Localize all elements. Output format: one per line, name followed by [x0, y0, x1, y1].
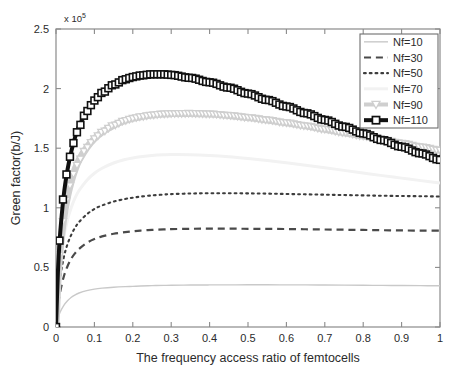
y-tick-label: 1: [43, 202, 49, 214]
legend-label: Nf=90: [393, 99, 423, 111]
series-marker: [70, 140, 77, 147]
y-axis-title: Green factor(b/J): [9, 131, 23, 225]
legend-label: Nf=110: [393, 114, 428, 126]
legend-label: Nf=10: [393, 36, 423, 48]
series-nf-70: [56, 155, 440, 327]
series-line: [56, 193, 440, 327]
series-nf-10: [56, 285, 440, 327]
series-marker: [63, 171, 70, 178]
legend-label: Nf=70: [393, 83, 423, 95]
green-factor-line-chart: 00.10.20.30.40.50.60.70.80.9100.511.522.…: [0, 0, 473, 375]
legend-label: Nf=50: [393, 67, 423, 79]
legend: Nf=10Nf=30Nf=50Nf=70Nf=90Nf=110: [360, 34, 438, 128]
x-tick-label: 0.9: [394, 332, 409, 344]
x-tick-label: 1: [437, 332, 443, 344]
y-tick-label: 0: [43, 321, 49, 333]
series-marker: [437, 156, 444, 163]
x-tick-label: 0.4: [202, 332, 217, 344]
x-tick-label: 0.8: [356, 332, 371, 344]
chart-figure: 00.10.20.30.40.50.60.70.80.9100.511.522.…: [0, 0, 473, 375]
legend-item-nf-110[interactable]: Nf=110: [364, 114, 428, 126]
series-marker: [56, 237, 63, 244]
series-marker: [60, 196, 67, 203]
series-marker: [77, 121, 84, 128]
x-tick-label: 0.5: [240, 332, 255, 344]
x-tick-label: 0.7: [317, 332, 332, 344]
y-tick-label: 2: [43, 83, 49, 95]
x-tick-label: 0: [53, 332, 59, 344]
x-axis-title: The frequency access ratio of femtocells: [136, 351, 360, 365]
y-axis-exponent-label: x 105: [64, 12, 86, 24]
series-nf-30: [56, 229, 440, 327]
legend-label: Nf=30: [393, 52, 423, 64]
series-marker: [74, 129, 81, 136]
y-tick-label: 0.5: [34, 261, 49, 273]
x-tick-label: 0.6: [279, 332, 294, 344]
series-line: [56, 155, 440, 327]
series-marker: [53, 324, 60, 331]
series-nf-50: [56, 193, 440, 327]
x-tick-label: 0.1: [87, 332, 102, 344]
x-tick-label: 0.2: [125, 332, 140, 344]
series-marker: [67, 153, 74, 160]
y-tick-label: 1.5: [34, 142, 49, 154]
series-line: [56, 285, 440, 327]
series-line: [56, 229, 440, 327]
x-tick-label: 0.3: [164, 332, 179, 344]
y-tick-label: 2.5: [34, 23, 49, 35]
legend-marker-square: [372, 117, 379, 124]
series-line: [56, 113, 440, 327]
